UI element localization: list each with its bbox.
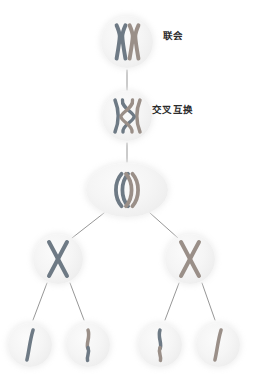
- meiosis-diagram: 联会交叉互换: [0, 0, 254, 378]
- x-chromosome-maternal-icon: [33, 234, 83, 284]
- cell-gamete-2: [66, 323, 110, 367]
- cell-crossover: [102, 91, 152, 141]
- cell-synapsis: [101, 16, 153, 68]
- chromatid-recombinant-b-icon: [138, 323, 182, 367]
- chiasma-pair-icon: [102, 91, 152, 141]
- synapsed-pair-icon: [101, 16, 153, 68]
- label-synapsis: 联会: [163, 31, 184, 41]
- cell-secondary-left: [33, 234, 83, 284]
- cell-anaphase-one: [86, 163, 168, 217]
- cell-layer: [0, 0, 254, 378]
- cell-gamete-1: [8, 323, 52, 367]
- cell-gamete-4: [196, 323, 240, 367]
- cell-gamete-3: [138, 323, 182, 367]
- chromatid-parental-a-icon: [8, 323, 52, 367]
- x-chromosome-paternal-icon: [165, 234, 215, 284]
- separating-pair-icon: [86, 163, 168, 217]
- cell-secondary-right: [165, 234, 215, 284]
- label-crossing-over: 交叉互换: [152, 105, 194, 115]
- chromatid-parental-b-icon: [196, 323, 240, 367]
- chromatid-recombinant-a-icon: [66, 323, 110, 367]
